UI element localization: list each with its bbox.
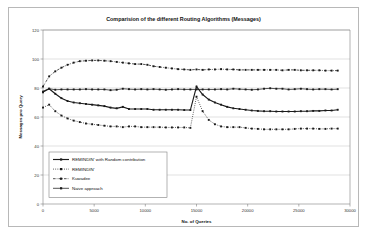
x-tick-label: 25000 [293,208,305,213]
series-marker [257,128,259,130]
y-axis-ticks: 020406080100120 [32,28,43,207]
series-marker [54,89,56,91]
series-marker [189,89,191,91]
series-marker [245,89,247,91]
series-marker [128,88,130,90]
series-marker [318,110,320,112]
series-marker [73,120,75,122]
series-marker [288,89,290,91]
chart-legend: REMINDIN' with Random contributionREMIND… [49,152,167,197]
series-marker [91,60,93,62]
series-marker [331,70,333,72]
series-marker [103,125,105,127]
series-marker [269,87,271,89]
series-marker [103,89,105,91]
series-marker [134,108,136,110]
series-marker [116,61,118,63]
series-marker [122,106,124,108]
series-2 [42,60,339,88]
series-marker [103,60,105,62]
series-marker [97,60,99,62]
series-marker [202,69,204,71]
series-marker [245,127,247,129]
series-marker [214,123,216,125]
series-marker [165,126,167,128]
series-marker [251,89,253,91]
series-marker [214,89,216,91]
series-marker [232,68,234,70]
series-marker [239,108,241,110]
series-marker [306,128,308,130]
series-marker [116,125,118,127]
series-marker [189,127,191,129]
series-marker [153,109,155,111]
series-marker [196,89,198,91]
series-marker [79,102,81,104]
series-marker [85,103,87,105]
series-marker [146,89,148,91]
series-marker [165,109,167,111]
series-marker [331,89,333,91]
series-marker [140,63,142,65]
series-marker [239,88,241,90]
series-marker [110,60,112,62]
series-marker [324,128,326,130]
series-marker [288,111,290,113]
legend-marker-swatch [60,158,62,160]
series-marker [312,128,314,130]
series-marker [42,91,44,93]
series-marker [232,88,234,90]
series-marker [73,62,75,64]
series-marker [251,110,253,112]
series-marker [312,110,314,112]
series-marker [116,89,118,91]
series-marker [300,88,302,90]
series-marker [208,89,210,91]
series-marker [134,125,136,127]
series-marker [60,97,62,99]
series-marker [79,89,81,91]
series-marker [269,128,271,130]
series-marker [226,89,228,91]
series-marker [97,124,99,126]
series-marker [140,126,142,128]
x-tick-label: 20000 [242,208,254,213]
series-marker [153,126,155,128]
series-marker [42,107,44,109]
series-marker [48,88,50,90]
series-marker [202,89,204,91]
series-marker [116,107,118,109]
series-marker [337,109,339,111]
series-marker [269,69,271,71]
series-marker [67,100,69,102]
series-line [43,60,338,86]
series-marker [189,69,191,71]
x-tick-label: 0 [42,208,45,213]
series-marker [300,128,302,130]
series-marker [312,69,314,71]
series-marker [294,128,296,130]
series-marker [239,126,241,128]
series-marker [324,110,326,112]
series-marker [226,68,228,70]
series-1 [42,96,339,131]
series-marker [177,68,179,70]
series-marker [110,89,112,91]
series-marker [146,126,148,128]
series-marker [128,108,130,110]
series-marker [171,126,173,128]
legend-label: Kuwadee [72,176,91,181]
series-marker [337,70,339,72]
series-marker [146,108,148,110]
series-marker [165,67,167,69]
series-marker [288,128,290,130]
series-marker [312,89,314,91]
series-marker [73,89,75,91]
y-tick-label: 120 [32,28,40,33]
series-marker [208,99,210,101]
series-marker [220,88,222,90]
series-marker [91,104,93,106]
series-marker [67,118,69,120]
series-marker [110,107,112,109]
x-axis-ticks: 050001000015000200002500030000 [42,204,357,213]
